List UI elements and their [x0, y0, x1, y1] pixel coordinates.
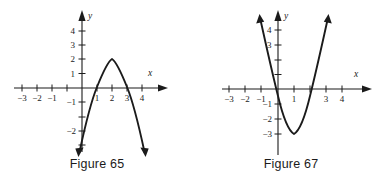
y-tick-label-neg2-67: −2 — [262, 114, 272, 124]
figure-block-67: −3 −2 −1 1 3 4 4 3 −1 −2 −3 x y — [194, 0, 388, 189]
y-tick-label-3-65: 3 — [71, 40, 76, 50]
x-axis-name-67: x — [353, 69, 359, 79]
y-tick-label-neg1-67: −1 — [262, 99, 272, 109]
x-tick-label-3-67: 3 — [324, 94, 329, 104]
x-tick-label-neg3-67: −3 — [224, 94, 234, 104]
plot-area-65: −3 −2 −1 1 2 3 4 4 3 2 1 −1 −2 x y — [0, 0, 194, 160]
x-tick-label-2-65: 2 — [110, 93, 115, 103]
x-tick-label-neg1-65: −1 — [47, 93, 57, 103]
x-tick-label-4-65: 4 — [140, 93, 145, 103]
x-axis-name-65: x — [147, 68, 153, 78]
y-tick-label-neg1-65: −1 — [66, 97, 76, 107]
x-tick-label-1-65: 1 — [95, 93, 100, 103]
graph-67: −3 −2 −1 1 3 4 4 3 −1 −2 −3 x y — [194, 0, 388, 160]
x-tick-label-neg2-65: −2 — [32, 93, 42, 103]
graph-65: −3 −2 −1 1 2 3 4 4 3 2 1 −1 −2 x y — [0, 0, 194, 160]
x-tick-label-4-67: 4 — [340, 94, 345, 104]
y-tick-label-neg3-67: −3 — [262, 129, 272, 139]
y-tick-label-2-65: 2 — [71, 54, 76, 64]
plot-area-67: −3 −2 −1 1 3 4 4 3 −1 −2 −3 x y — [194, 0, 388, 160]
x-tick-label-neg2-67: −2 — [240, 94, 250, 104]
y-tick-label-4-65: 4 — [71, 26, 76, 36]
x-tick-label-1-67: 1 — [292, 94, 297, 104]
parabola-curve-65 — [75, 59, 148, 157]
figures-row: −3 −2 −1 1 2 3 4 4 3 2 1 −1 −2 x y — [0, 0, 388, 189]
y-axis-name-65: y — [87, 11, 93, 21]
y-tick-label-1-65: 1 — [71, 69, 76, 79]
y-tick-label-4-67: 4 — [267, 25, 272, 35]
figure-block-65: −3 −2 −1 1 2 3 4 4 3 2 1 −1 −2 x y — [0, 0, 194, 189]
y-axis-name-67: y — [283, 11, 289, 21]
y-tick-label-neg2-65: −2 — [66, 126, 76, 136]
x-tick-label-neg3-65: −3 — [17, 93, 27, 103]
